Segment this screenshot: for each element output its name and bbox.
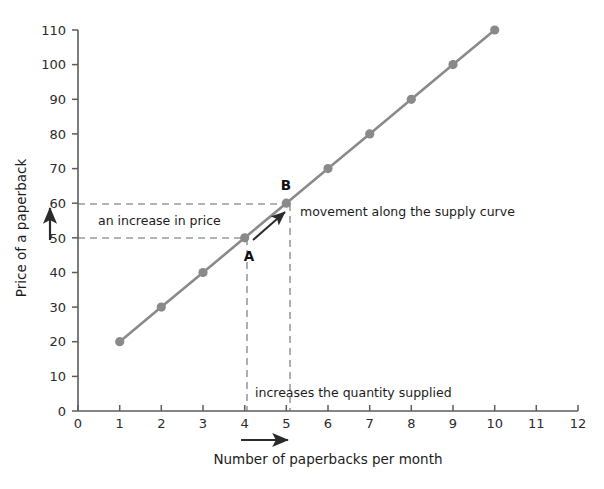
x-tick-label-8: 8 [407,416,415,431]
x-tick-label-1: 1 [116,416,124,431]
x-tick-label-11: 11 [528,416,545,431]
data-point [365,129,374,138]
x-tick-label-6: 6 [324,416,332,431]
y-tick-label-0: 0 [58,404,66,419]
x-tick-label-0: 0 [74,416,82,431]
y-tick-label-110: 110 [41,23,66,38]
y-tick-label-20: 20 [49,334,66,349]
point-label-b: B [281,177,291,193]
data-point [448,60,457,69]
y-tick-label-10: 10 [49,369,66,384]
x-tick-label-9: 9 [449,416,457,431]
chart-background [0,0,604,489]
y-tick-label-100: 100 [41,57,66,72]
y-axis-title: Price of a paperback [13,159,29,298]
annotation-quantity-increase: increases the quantity supplied [255,385,452,400]
x-axis-title: Number of paperbacks per month [213,451,442,467]
y-tick-label-50: 50 [49,231,66,246]
y-tick-label-60: 60 [49,196,66,211]
y-tick-label-30: 30 [49,300,66,315]
point-label-a: A [244,248,255,264]
y-tick-label-80: 80 [49,127,66,142]
x-tick-label-12: 12 [570,416,587,431]
x-tick-label-7: 7 [366,416,374,431]
data-point [240,233,249,242]
data-point [282,199,291,208]
data-point [115,337,124,346]
y-tick-label-70: 70 [49,161,66,176]
data-point [323,164,332,173]
x-tick-label-5: 5 [282,416,290,431]
annotation-movement-along-curve: movement along the supply curve [300,204,515,219]
data-point [198,268,207,277]
data-point [490,25,499,34]
x-tick-label-10: 10 [486,416,503,431]
x-tick-label-2: 2 [157,416,165,431]
supply-curve-chart: 0 10 20 30 40 50 60 70 80 90 100 110 [0,0,604,489]
data-point [407,95,416,104]
y-tick-label-90: 90 [49,92,66,107]
data-point [157,303,166,312]
x-tick-label-4: 4 [241,416,249,431]
y-tick-label-40: 40 [49,265,66,280]
x-tick-label-3: 3 [199,416,207,431]
annotation-price-increase: an increase in price [98,213,221,228]
chart-svg: 0 10 20 30 40 50 60 70 80 90 100 110 [0,0,604,489]
